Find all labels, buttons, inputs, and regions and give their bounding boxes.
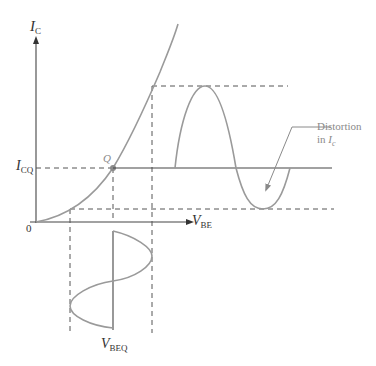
icq-label: ICQ xyxy=(16,158,33,175)
transfer-curve xyxy=(36,24,178,222)
icq-label-sub: CQ xyxy=(21,165,34,175)
x-axis-label-main: V xyxy=(192,213,201,228)
vbeq-label-sub: BEQ xyxy=(110,343,128,353)
y-axis-label-sub: C xyxy=(35,26,41,36)
distortion-annotation: Distortion in Ic xyxy=(317,120,362,150)
transistor-distortion-diagram xyxy=(0,0,376,366)
distortion-annotation-sub: c xyxy=(332,139,336,148)
distortion-annotation-line2: in Ic xyxy=(317,133,362,150)
vbeq-label-main: V xyxy=(101,336,110,351)
distortion-annotation-prefix: in xyxy=(317,133,328,145)
distortion-annotation-line1: Distortion xyxy=(317,120,362,133)
x-axis-label-sub: BE xyxy=(201,220,213,230)
vbeq-label: VBEQ xyxy=(101,336,128,353)
input-waveform xyxy=(70,231,152,328)
y-axis-label: IC xyxy=(30,18,41,36)
x-axis-label: VBE xyxy=(192,213,212,230)
q-label: Q xyxy=(103,152,111,164)
output-waveform xyxy=(175,86,290,209)
origin-label: 0 xyxy=(26,222,32,234)
dashed-guides xyxy=(36,86,334,333)
